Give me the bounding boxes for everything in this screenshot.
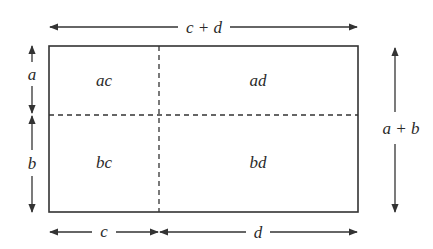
left-bottom-dimension-label: b — [28, 154, 37, 173]
right-dimension-label: a + b — [383, 119, 420, 138]
cell-bc-label: bc — [96, 153, 113, 172]
cell-ad-label: ad — [250, 71, 268, 90]
bottom-right-dimension-label: d — [254, 223, 263, 242]
cell-bd-label: bd — [250, 153, 268, 172]
area-model-diagram: c + d a + b a b c d ac ad — [0, 0, 433, 249]
bottom-left-dimension-label: c — [100, 222, 108, 241]
top-dimension-label: c + d — [186, 18, 223, 37]
left-top-dimension-label: a — [28, 65, 37, 84]
cell-ac-label: ac — [96, 71, 113, 90]
